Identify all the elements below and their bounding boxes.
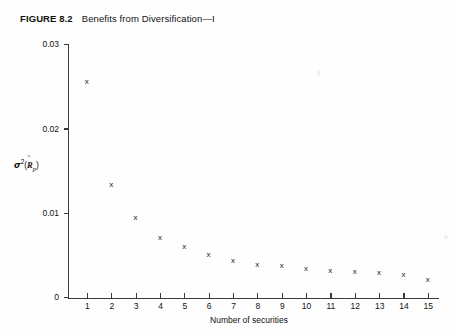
x-tick-label: 1 xyxy=(77,301,97,311)
x-tick-mark xyxy=(209,293,210,298)
data-point: x xyxy=(228,256,238,266)
return-letter: R xyxy=(27,160,33,170)
scan-artifact xyxy=(444,235,448,239)
data-point: x xyxy=(204,250,214,260)
data-point: x xyxy=(301,264,311,274)
scatter-plot: 00.010.020.03 123456789101112131415 xxxx… xyxy=(0,0,454,334)
x-tick-mark xyxy=(184,293,185,298)
data-point: x xyxy=(106,180,116,190)
x-tick-label: 15 xyxy=(418,301,438,311)
x-tick-mark xyxy=(330,293,331,298)
data-point: x xyxy=(155,233,165,243)
paren-close: ) xyxy=(36,160,39,170)
figure-container: FIGURE 8.2Benefits from Diversification—… xyxy=(0,0,454,334)
x-tick-mark xyxy=(403,293,404,298)
y-tick-mark xyxy=(64,44,69,45)
x-tick-mark xyxy=(233,293,234,298)
x-tick-label: 3 xyxy=(126,301,146,311)
x-tick-label: 11 xyxy=(321,301,341,311)
x-tick-label: 8 xyxy=(248,301,268,311)
x-tick-label: 10 xyxy=(297,301,317,311)
y-tick-label: 0.02 xyxy=(17,124,59,134)
data-point: x xyxy=(423,275,433,285)
x-tick-label: 14 xyxy=(394,301,414,311)
y-tick-mark xyxy=(64,297,69,298)
x-tick-mark xyxy=(87,293,88,298)
data-point: x xyxy=(325,266,335,276)
data-point: x xyxy=(398,270,408,280)
x-tick-mark xyxy=(282,293,283,298)
x-tick-mark xyxy=(428,293,429,298)
y-tick-label: 0.03 xyxy=(17,39,59,49)
y-tick-mark xyxy=(64,213,69,214)
x-axis-title-text: Number of securities xyxy=(210,315,288,325)
sigma-symbol: σ xyxy=(14,160,21,170)
x-tick-label: 2 xyxy=(102,301,122,311)
x-axis-title: Number of securities xyxy=(0,315,454,325)
x-tick-label: 6 xyxy=(199,301,219,311)
x-tick-mark xyxy=(379,293,380,298)
x-tick-mark xyxy=(160,293,161,298)
data-point: x xyxy=(252,260,262,270)
return-variable: ̃R xyxy=(27,160,33,170)
y-tick-label: 0.01 xyxy=(17,208,59,218)
x-tick-mark xyxy=(136,293,137,298)
data-point: x xyxy=(179,242,189,252)
x-tick-label: 9 xyxy=(272,301,292,311)
y-axis-line xyxy=(68,45,69,299)
x-tick-label: 13 xyxy=(370,301,390,311)
x-axis-line xyxy=(68,298,439,299)
y-tick-label: 0 xyxy=(17,292,59,302)
x-tick-mark xyxy=(257,293,258,298)
data-point: x xyxy=(277,261,287,271)
y-axis-title: σ2(̃Rp) xyxy=(14,158,39,172)
x-tick-mark xyxy=(355,293,356,298)
data-point: x xyxy=(350,267,360,277)
scan-artifact xyxy=(317,70,320,76)
y-tick-mark xyxy=(64,128,69,129)
x-tick-mark xyxy=(111,293,112,298)
data-point: x xyxy=(374,268,384,278)
x-tick-mark xyxy=(306,293,307,298)
x-tick-label: 7 xyxy=(224,301,244,311)
x-tick-label: 4 xyxy=(151,301,171,311)
x-tick-label: 12 xyxy=(345,301,365,311)
data-point: x xyxy=(82,77,92,87)
x-tick-label: 5 xyxy=(175,301,195,311)
data-point: x xyxy=(131,213,141,223)
